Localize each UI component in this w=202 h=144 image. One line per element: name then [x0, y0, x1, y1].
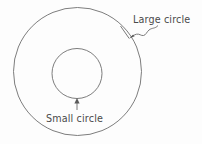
small-circle-label: Small circle [46, 113, 103, 124]
small-circle [52, 49, 102, 99]
large-circle-leader-squiggle [131, 26, 158, 38]
large-circle-label: Large circle [133, 14, 190, 25]
diagram-canvas: Large circle Small circle [0, 0, 202, 144]
concentric-circles-diagram: Large circle Small circle [0, 0, 202, 144]
